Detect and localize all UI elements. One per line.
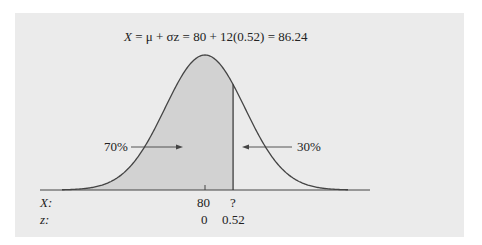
label-70-percent: 70% xyxy=(104,139,128,155)
z-value-cutoff: 0.52 xyxy=(222,212,245,228)
z-row-label: z: xyxy=(40,212,49,228)
z-value-zero: 0 xyxy=(201,212,208,228)
arrow-30-head xyxy=(242,145,249,150)
equation: X = μ + σz = 80 + 12(0.52) = 86.24 xyxy=(124,29,308,45)
equation-lhs: X xyxy=(124,29,132,44)
x-row-label: X: xyxy=(40,195,52,211)
equation-rhs: = μ + σz = 80 + 12(0.52) = 86.24 xyxy=(132,29,308,44)
shaded-area-70 xyxy=(62,55,233,190)
x-value-unknown: ? xyxy=(230,195,236,211)
label-30-percent: 30% xyxy=(297,139,321,155)
x-value-mean: 80 xyxy=(197,195,210,211)
